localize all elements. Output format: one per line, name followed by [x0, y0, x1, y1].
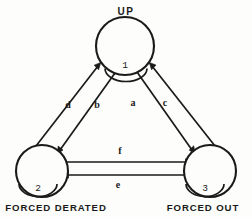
edge-line-a [137, 72, 192, 150]
edge-line-b [60, 73, 115, 150]
edge-group-2-3-horizontal [62, 159, 193, 178]
node-2-circle [16, 145, 68, 197]
edge-label-d: d [65, 99, 71, 110]
node-2-label: FORCED DERATED [5, 202, 106, 213]
node-2[interactable]: 2 FORCED DERATED [5, 145, 106, 213]
node-3[interactable]: 3 FORCED OUT [167, 145, 239, 213]
edge-group-1-3 [137, 62, 215, 154]
edge-label-e: e [116, 179, 121, 190]
diagram-canvas: 1 UP 2 FORCED DERATED 3 FORCED OUT d b a… [0, 0, 252, 217]
state-transition-diagram: 1 UP 2 FORCED DERATED 3 FORCED OUT d b a… [0, 0, 252, 217]
edge-group-2-1 [36, 62, 115, 154]
node-1-number: 1 [122, 60, 128, 71]
edge-label-c: c [163, 97, 168, 108]
node-2-number: 2 [35, 183, 41, 194]
edge-label-b: b [94, 99, 100, 110]
node-3-circle [184, 145, 236, 197]
node-1-label: UP [117, 6, 134, 17]
edge-label-f: f [118, 145, 122, 156]
edge-label-a: a [131, 97, 136, 108]
node-1[interactable]: 1 UP [96, 6, 154, 82]
node-3-number: 3 [202, 183, 208, 194]
node-3-label: FORCED OUT [167, 202, 239, 213]
